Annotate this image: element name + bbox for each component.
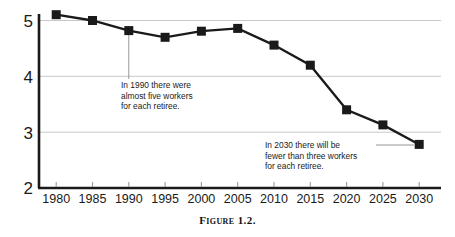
x-tick-label-2030: 2030 bbox=[405, 192, 433, 206]
x-tick-label-1990: 1990 bbox=[115, 192, 143, 206]
data-point-2030[interactable] bbox=[415, 140, 424, 149]
x-tick-label-2005: 2005 bbox=[224, 192, 252, 206]
data-point-1990[interactable] bbox=[124, 26, 133, 35]
annotation-1990-line-2: almost five workers bbox=[121, 91, 193, 101]
data-point-1995[interactable] bbox=[161, 33, 170, 42]
annotation-1990-line-3: for each retiree. bbox=[121, 101, 180, 111]
y-axis-labels: 5 4 3 2 bbox=[24, 12, 33, 198]
grid-lines bbox=[38, 21, 441, 133]
figure-caption: Figure 1.2. bbox=[0, 214, 455, 226]
y-tick-label-3: 3 bbox=[24, 124, 33, 143]
x-tick-label-2020: 2020 bbox=[333, 192, 361, 206]
x-tick-label-2015: 2015 bbox=[296, 192, 324, 206]
x-tick-label-2000: 2000 bbox=[187, 192, 215, 206]
annotation-2030: In 2030 there will be fewer than three w… bbox=[265, 140, 357, 171]
x-tick-label-1995: 1995 bbox=[151, 192, 179, 206]
line-chart: 5 4 3 2 1980 1985 1990 1995 2000 2005 20… bbox=[0, 0, 455, 237]
figure-container: 5 4 3 2 1980 1985 1990 1995 2000 2005 20… bbox=[0, 0, 455, 237]
y-tick-label-2: 2 bbox=[24, 179, 33, 198]
data-line bbox=[56, 15, 419, 145]
data-markers bbox=[52, 10, 424, 149]
data-point-2010[interactable] bbox=[270, 41, 279, 50]
x-axis-labels: 1980 1985 1990 1995 2000 2005 2010 2015 … bbox=[42, 192, 433, 206]
annotation-2030-line-2: fewer than three workers bbox=[265, 151, 357, 161]
annotation-2030-line-1: In 2030 there will be bbox=[265, 140, 340, 150]
annotation-1990: In 1990 there were almost five workers f… bbox=[121, 80, 193, 111]
data-point-1985[interactable] bbox=[88, 16, 97, 25]
annotation-2030-line-3: for each retiree. bbox=[265, 161, 324, 171]
x-tick-label-2025: 2025 bbox=[369, 192, 397, 206]
x-tick-label-2010: 2010 bbox=[260, 192, 288, 206]
data-point-2025[interactable] bbox=[378, 120, 387, 129]
data-point-2000[interactable] bbox=[197, 27, 206, 36]
x-tick-label-1985: 1985 bbox=[79, 192, 107, 206]
data-point-2015[interactable] bbox=[306, 61, 315, 70]
x-tick-marks bbox=[56, 182, 419, 187]
data-point-2005[interactable] bbox=[233, 24, 242, 33]
data-point-1980[interactable] bbox=[52, 10, 61, 19]
y-tick-label-5: 5 bbox=[24, 12, 33, 31]
axes bbox=[38, 14, 441, 188]
data-point-2020[interactable] bbox=[342, 105, 351, 114]
x-tick-label-1980: 1980 bbox=[42, 192, 70, 206]
y-tick-label-4: 4 bbox=[24, 68, 33, 87]
annotation-1990-line-1: In 1990 there were bbox=[121, 80, 191, 90]
